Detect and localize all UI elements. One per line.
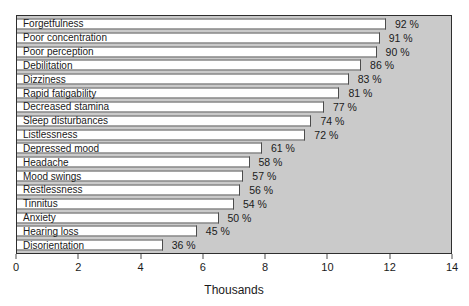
bar-row: Anxiety50 % xyxy=(17,211,451,225)
bar-label: Debilitation xyxy=(23,60,72,70)
bar: Headache xyxy=(17,157,250,168)
bar-row: Tinnitus54 % xyxy=(17,197,451,211)
x-tick-label: 6 xyxy=(200,261,206,273)
bar-label: Forgetfulness xyxy=(23,19,84,29)
bar-value-label: 36 % xyxy=(172,240,196,251)
x-tick-label: 12 xyxy=(384,261,396,273)
bar-row: Decreased stamina77 % xyxy=(17,100,451,114)
bar-row: Poor concentration91 % xyxy=(17,31,451,45)
x-tick-label: 0 xyxy=(13,261,19,273)
bar-row: Sleep disturbances74 % xyxy=(17,114,451,128)
bar: Poor perception xyxy=(17,46,377,57)
x-tick-mark xyxy=(452,254,453,259)
bar: Disorientation xyxy=(17,240,163,251)
bar-value-label: 56 % xyxy=(249,185,273,196)
bar-row: Restlessness56 % xyxy=(17,183,451,197)
bar-chart-figure: Forgetfulness92 %Poor concentration91 %P… xyxy=(0,0,469,306)
bar-row: Rapid fatigability81 % xyxy=(17,86,451,100)
bar-value-label: 61 % xyxy=(271,143,295,154)
bar-value-label: 90 % xyxy=(386,46,410,57)
bar-value-label: 92 % xyxy=(395,19,419,30)
bar-label: Sleep disturbances xyxy=(23,116,108,126)
bar-row: Disorientation36 % xyxy=(17,238,451,252)
bar-row: Poor perception90 % xyxy=(17,45,451,59)
bar-value-label: 50 % xyxy=(228,212,252,223)
bar-row: Depressed mood61 % xyxy=(17,141,451,155)
bar: Debilitation xyxy=(17,60,361,71)
bar: Poor concentration xyxy=(17,32,380,43)
bar: Hearing loss xyxy=(17,226,197,237)
bar: Decreased stamina xyxy=(17,101,324,112)
bar-value-label: 91 % xyxy=(389,32,413,43)
bar: Tinnitus xyxy=(17,198,234,209)
bar-value-label: 54 % xyxy=(243,198,267,209)
bar-value-label: 81 % xyxy=(348,88,372,99)
bar-row: Listlessness72 % xyxy=(17,128,451,142)
bar-value-label: 72 % xyxy=(314,129,338,140)
bar-value-label: 77 % xyxy=(333,102,357,113)
x-tick-mark xyxy=(16,254,17,259)
x-tick-label: 2 xyxy=(75,261,81,273)
bar: Sleep disturbances xyxy=(17,115,311,126)
bar-label: Disorientation xyxy=(23,240,84,250)
x-tick-label: 4 xyxy=(138,261,144,273)
x-tick-mark xyxy=(140,254,141,259)
x-tick-mark xyxy=(265,254,266,259)
bar-label: Poor concentration xyxy=(23,33,107,43)
bar: Restlessness xyxy=(17,184,240,195)
bar: Forgetfulness xyxy=(17,18,386,29)
bar-label: Anxiety xyxy=(23,213,56,223)
bar-value-label: 57 % xyxy=(252,171,276,182)
bar: Mood swings xyxy=(17,171,243,182)
bar-label: Dizziness xyxy=(23,74,66,84)
bar-label: Listlessness xyxy=(23,130,77,140)
bar-row: Headache58 % xyxy=(17,155,451,169)
bar: Dizziness xyxy=(17,74,349,85)
plot-area: Forgetfulness92 %Poor concentration91 %P… xyxy=(16,15,452,254)
bar-value-label: 58 % xyxy=(259,157,283,168)
bar-label: Hearing loss xyxy=(23,226,79,236)
x-tick-label: 14 xyxy=(446,261,458,273)
bar-row: Dizziness83 % xyxy=(17,72,451,86)
x-tick-label: 8 xyxy=(262,261,268,273)
bar-label: Tinnitus xyxy=(23,199,58,209)
bar-row: Forgetfulness92 % xyxy=(17,17,451,31)
bar: Rapid fatigability xyxy=(17,88,339,99)
bar-label: Poor perception xyxy=(23,47,94,57)
x-tick-mark xyxy=(389,254,390,259)
x-tick-label: 10 xyxy=(321,261,333,273)
bar-label: Headache xyxy=(23,157,69,167)
x-axis-title: Thousands xyxy=(16,283,452,297)
x-tick-mark xyxy=(78,254,79,259)
bar-value-label: 74 % xyxy=(321,115,345,126)
bar-row: Mood swings57 % xyxy=(17,169,451,183)
bar-value-label: 86 % xyxy=(370,60,394,71)
bar-label: Rapid fatigability xyxy=(23,88,96,98)
bar-label: Mood swings xyxy=(23,171,81,181)
x-axis: 02468101214 xyxy=(16,254,452,280)
x-tick-mark xyxy=(327,254,328,259)
bar-row: Hearing loss45 % xyxy=(17,224,451,238)
bar-row: Debilitation86 % xyxy=(17,58,451,72)
bar: Anxiety xyxy=(17,212,219,223)
bar-label: Decreased stamina xyxy=(23,102,109,112)
bar-label: Depressed mood xyxy=(23,143,99,153)
bar: Listlessness xyxy=(17,129,305,140)
x-tick-mark xyxy=(202,254,203,259)
bar-value-label: 83 % xyxy=(358,74,382,85)
bar: Depressed mood xyxy=(17,143,262,154)
bar-label: Restlessness xyxy=(23,185,82,195)
bar-value-label: 45 % xyxy=(206,226,230,237)
